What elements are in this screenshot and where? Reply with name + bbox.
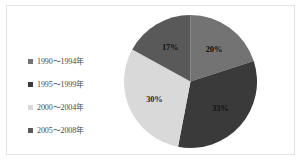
- chart-legend: 1990～1994年 1995～1999年 2000～2004年 2005～20…: [28, 52, 114, 144]
- pie-slice-label: 33%: [212, 103, 228, 113]
- legend-swatch-icon: [28, 105, 33, 110]
- legend-swatch-icon: [28, 128, 33, 133]
- legend-item-1995-1999: 1995～1999年: [28, 75, 114, 93]
- legend-item-label: 2000～2004年: [37, 103, 84, 112]
- pie-slice-label: 17%: [162, 42, 178, 52]
- pie-chart: 20%33%30%17%: [124, 15, 257, 148]
- legend-item-2000-2004: 2000～2004年: [28, 98, 114, 116]
- pie-slices: [124, 15, 257, 148]
- legend-item-label: 1995～1999年: [37, 80, 84, 89]
- legend-item-2005-2008: 2005～2008年: [28, 121, 114, 139]
- legend-item-label: 2005～2008年: [37, 126, 84, 135]
- legend-swatch-icon: [28, 82, 33, 87]
- pie-slice-label: 20%: [206, 44, 222, 54]
- pie-chart-figure: 1990～1994年 1995～1999年 2000～2004年 2005～20…: [0, 0, 302, 164]
- legend-item-label: 1990～1994年: [37, 57, 84, 66]
- legend-swatch-icon: [28, 59, 33, 64]
- legend-item-1990-1994: 1990～1994年: [28, 52, 114, 70]
- pie-slice-label: 30%: [146, 94, 162, 104]
